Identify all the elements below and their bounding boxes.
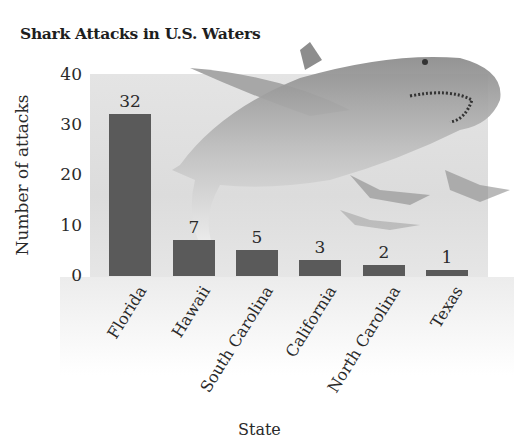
y-tick-0: 0 — [52, 265, 82, 285]
bar-california — [299, 260, 341, 276]
y-tick-10: 10 — [52, 215, 82, 235]
bar-texas — [426, 270, 468, 276]
x-axis-label: State — [238, 420, 281, 439]
bar-florida — [109, 114, 151, 276]
value-label-texas: 1 — [427, 247, 467, 267]
value-label-florida: 32 — [110, 91, 150, 111]
value-label-north-carolina: 2 — [364, 242, 404, 262]
bar-south-carolina — [236, 250, 278, 276]
bar-north-carolina — [363, 265, 405, 276]
value-label-california: 3 — [300, 237, 340, 257]
y-tick-20: 20 — [52, 164, 82, 184]
y-axis-label: Number of attacks — [12, 95, 32, 256]
y-tick-30: 30 — [52, 114, 82, 134]
bar-hawaii — [173, 240, 215, 276]
value-label-south-carolina: 5 — [237, 227, 277, 247]
y-tick-40: 40 — [52, 64, 82, 84]
value-label-hawaii: 7 — [174, 217, 214, 237]
